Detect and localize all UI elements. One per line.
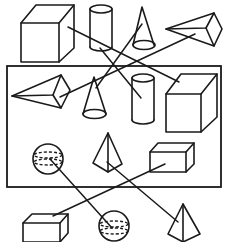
link-cone [96, 24, 142, 88]
box-cylinder-shape [132, 74, 154, 124]
link-cube [68, 27, 179, 82]
box-cube-shape [166, 74, 217, 132]
bottom-cuboid-shape [23, 214, 68, 242]
box-pyramid-shape [12, 75, 70, 108]
bottom-sphere-shape [99, 211, 129, 241]
top-cube-shape [21, 5, 74, 62]
box-cone-shape [83, 77, 106, 119]
link-tetra [107, 162, 178, 222]
box-tetra-shape [93, 133, 122, 172]
top-pyramid-shape [166, 13, 222, 46]
top-cone-shape [133, 7, 155, 50]
bottom-tetra-shape [168, 204, 200, 242]
diagram-canvas [0, 0, 226, 242]
matching-diagram [0, 0, 226, 242]
